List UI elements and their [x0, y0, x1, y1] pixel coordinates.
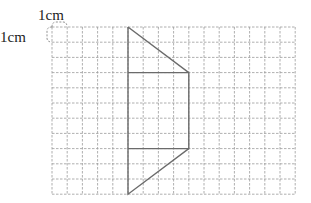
dashed-grid: [52, 27, 295, 194]
grid-diagram: [0, 0, 311, 203]
unit-brace-left: [47, 27, 52, 42]
unit-brace-top: [52, 22, 67, 27]
